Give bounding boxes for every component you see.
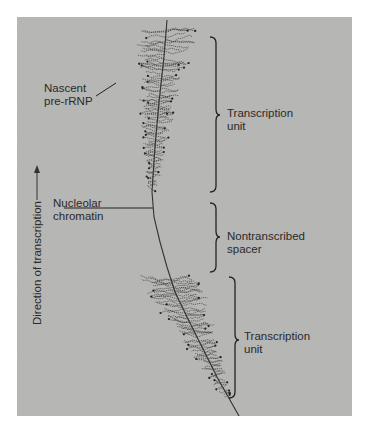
rnp-granule xyxy=(143,147,145,149)
rnp-granule xyxy=(213,379,215,381)
rnp-granule xyxy=(147,177,149,179)
rnp-granule xyxy=(143,100,145,102)
rnp-granule xyxy=(139,113,141,115)
rnp-granule xyxy=(228,389,230,391)
rnp-granule xyxy=(145,134,147,136)
nascent-label-line-2: pre-rRNP xyxy=(44,95,93,108)
rnp-granule xyxy=(148,167,150,169)
transcription-unit-label-1-line-1: Transcription xyxy=(227,107,293,120)
rnp-granule xyxy=(172,112,174,114)
rnp-granule xyxy=(229,394,231,396)
rnp-granule xyxy=(147,102,149,104)
rnp-granule xyxy=(166,113,168,115)
spacer-label-line-2: spacer xyxy=(227,243,305,256)
rnp-granule xyxy=(211,373,213,375)
rnp-granule xyxy=(163,147,165,149)
rnp-granule xyxy=(216,341,218,343)
rnp-granule xyxy=(144,152,146,154)
rnp-granule xyxy=(167,137,169,139)
rnp-granule xyxy=(178,69,180,71)
transcription-unit-label-2-line-2: unit xyxy=(244,343,310,356)
rnp-granule xyxy=(154,190,156,192)
transcription-unit-label-1-line-2: unit xyxy=(227,120,293,133)
transcription-unit-label-1: Transcription unit xyxy=(227,107,293,133)
rnp-granule xyxy=(183,333,185,335)
rnp-granule xyxy=(142,122,144,124)
rnp-granule xyxy=(171,98,173,100)
rnp-granule xyxy=(145,37,147,39)
rnp-granule xyxy=(142,136,144,138)
rnp-granule xyxy=(178,64,180,66)
chromatin-label-line-2: chromatin xyxy=(53,210,104,223)
rnp-granule xyxy=(175,74,177,76)
rnp-granule xyxy=(183,67,185,69)
transcription-unit-label-2: Transcription unit xyxy=(244,330,310,356)
rnp-granule xyxy=(166,303,168,305)
rnp-granule xyxy=(148,162,150,164)
rnp-granule xyxy=(226,381,228,383)
rnp-granule xyxy=(186,348,188,350)
chromatin-label-line-1: Nucleolar xyxy=(53,197,104,210)
rnp-granule xyxy=(197,283,199,285)
micrograph-panel: Nascent pre-rRNP Nucleolar chromatin Dir… xyxy=(17,17,352,416)
rnp-granule xyxy=(194,30,196,32)
rnp-granule xyxy=(187,344,189,346)
rnp-granule xyxy=(195,358,197,360)
rnp-granule xyxy=(188,275,190,277)
nascent-label: Nascent pre-rRNP xyxy=(44,82,93,108)
transcription-unit-label-2-line-1: Transcription xyxy=(244,330,310,343)
rnp-granule xyxy=(170,100,172,102)
nascent-label-line-1: Nascent xyxy=(44,82,93,95)
direction-label: Direction of transcription xyxy=(31,201,44,325)
rnp-granule xyxy=(146,61,148,63)
rnp-granule xyxy=(168,318,170,320)
rnp-granule xyxy=(204,328,206,330)
rnp-granule xyxy=(164,127,166,129)
rnp-granule xyxy=(144,130,146,132)
rnp-granule xyxy=(163,151,165,153)
rnp-granule xyxy=(142,87,144,89)
rnp-granule xyxy=(220,356,222,358)
spacer-label: Nontranscribed spacer xyxy=(227,230,305,256)
rnp-granule xyxy=(215,388,217,390)
rnp-granule xyxy=(147,75,149,77)
rnp-granule xyxy=(214,345,216,347)
rnp-granule xyxy=(150,296,152,298)
rnp-granule xyxy=(148,117,150,119)
rnp-granule xyxy=(188,62,190,64)
rnp-granule xyxy=(159,312,161,314)
rnp-granule xyxy=(208,325,210,327)
chromatin-label: Nucleolar chromatin xyxy=(53,197,104,223)
rnp-granule xyxy=(147,81,149,83)
spacer-label-line-1: Nontranscribed xyxy=(227,230,305,243)
